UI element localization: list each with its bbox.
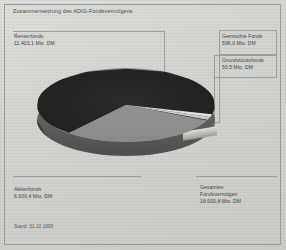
pie-chart	[35, 58, 220, 178]
label-rentenfonds: Rentenfonds 11.403,1 Mio. DM	[14, 33, 55, 47]
label-rentenfonds-name: Rentenfonds	[14, 33, 55, 40]
label-gesamt-name: Gesamtes	[200, 184, 241, 191]
label-grundstuecksfonds-value: 50,5 Mio. DM	[222, 64, 264, 71]
pie-top-face	[37, 68, 215, 142]
label-gemischte-fonds: Gemischte Fonds 596,0 Mio. DM	[222, 33, 263, 47]
label-grundstuecksfonds-name: Grundstücksfonds	[222, 57, 264, 64]
label-gesamt-name2: Fondsvermögen	[200, 191, 241, 198]
label-gesamtes-fondsvermoegen: Gesamtes Fondsvermögen 18.000,8 Mio. DM	[200, 184, 241, 205]
label-rentenfonds-value: 11.403,1 Mio. DM	[14, 40, 55, 47]
page-title: Zusammensetzung des ADIG-Fondsvermögens	[13, 8, 133, 14]
figure-stand-note: Stand: 31.12.1993	[14, 224, 53, 229]
figure-page: Zusammensetzung des ADIG-Fondsvermögens …	[0, 0, 286, 250]
label-gemischte-fonds-name: Gemischte Fonds	[222, 33, 263, 40]
label-gesamt-value: 18.000,8 Mio. DM	[200, 198, 241, 205]
label-grundstuecksfonds: Grundstücksfonds 50,5 Mio. DM	[222, 57, 264, 71]
label-gemischte-fonds-value: 596,0 Mio. DM	[222, 40, 263, 47]
label-aktienfonds: Aktienfonds 6.930,4 Mio. DM	[14, 186, 52, 200]
label-aktienfonds-value: 6.930,4 Mio. DM	[14, 193, 52, 200]
label-aktienfonds-name: Aktienfonds	[14, 186, 52, 193]
